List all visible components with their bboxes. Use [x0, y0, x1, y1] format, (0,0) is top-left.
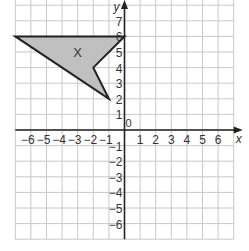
y-tick-label: 6	[116, 30, 123, 44]
y-tick-label: 4	[116, 62, 123, 76]
x-tick-label: 6	[215, 133, 222, 147]
shape-label: X	[73, 45, 82, 60]
y-tick-label: −1	[109, 140, 123, 154]
y-axis-label: y	[113, 0, 121, 14]
y-tick-label: −2	[109, 155, 123, 169]
x-tick-label: −6	[21, 133, 35, 147]
y-tick-label: 7	[116, 15, 123, 29]
y-tick-label: −4	[109, 186, 123, 200]
x-axis-label: x	[235, 132, 243, 146]
y-tick-label: 3	[116, 77, 123, 91]
coordinate-plane: X −6−5−4−3−2−1123456−6−5−4−3−2−112345670…	[0, 0, 249, 251]
y-tick-label: 1	[116, 108, 123, 122]
x-tick-label: −2	[83, 133, 97, 147]
x-tick-label: 4	[184, 133, 191, 147]
y-tick-label: −6	[109, 218, 123, 232]
x-tick-label: 5	[199, 133, 206, 147]
y-tick-label: −3	[109, 171, 123, 185]
origin-label: 0	[126, 117, 132, 129]
x-tick-label: −4	[52, 133, 66, 147]
x-tick-label: 1	[137, 133, 144, 147]
x-tick-label: −3	[68, 133, 82, 147]
y-tick-label: 2	[116, 93, 123, 107]
x-tick-label: 3	[168, 133, 175, 147]
y-axis-arrow-icon	[121, 0, 128, 9]
y-tick-label: 5	[116, 46, 123, 60]
x-tick-label: 2	[152, 133, 159, 147]
x-tick-label: −5	[37, 133, 51, 147]
y-tick-label: −5	[109, 202, 123, 216]
tick-labels: −6−5−4−3−2−1123456−6−5−4−3−2−112345670xy	[21, 0, 243, 232]
